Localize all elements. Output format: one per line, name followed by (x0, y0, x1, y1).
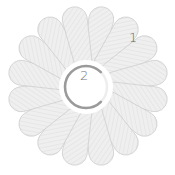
center-disc (59, 60, 113, 114)
flower-board (0, 0, 175, 175)
